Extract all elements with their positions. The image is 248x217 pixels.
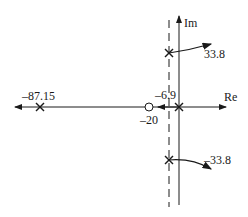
zero-label: –20 [139, 113, 158, 127]
imaginary-axis-label: Im [184, 16, 198, 30]
pole-label-upper: 33.8 [204, 47, 225, 61]
root-locus-diagram: Re Im –6.9 –87.15 –20 33.8 –33.8 [0, 0, 248, 217]
real-axis-label: Re [224, 90, 237, 104]
pole-label-lower: –33.8 [203, 153, 231, 167]
pole-label-left: –87.15 [21, 89, 55, 103]
asymptote-label: –6.9 [154, 88, 176, 102]
zero-marker-circle-icon [145, 103, 153, 111]
